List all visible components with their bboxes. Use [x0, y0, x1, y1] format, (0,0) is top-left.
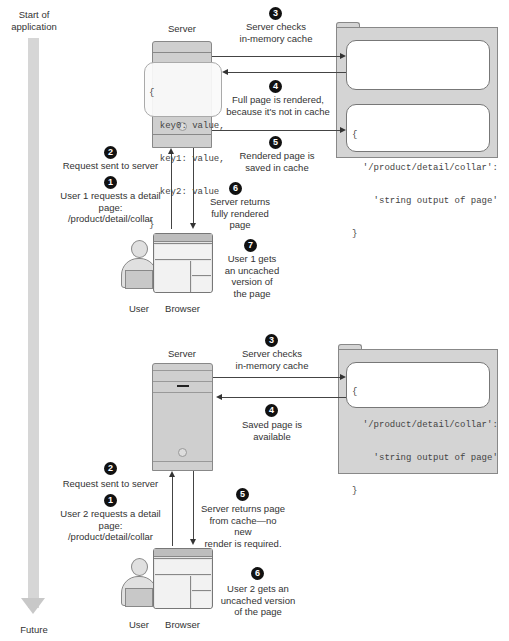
cache-entry-panel: { '/product/detail/collar': 'string outp… — [346, 362, 490, 408]
arrow-cache-hit — [222, 397, 346, 398]
step-1-label: User 1 requests a detail page:/product/d… — [48, 190, 173, 225]
step-badge: 2 — [104, 462, 117, 475]
arrow-head-icon — [169, 471, 175, 477]
code-line: '/product/detail/collar': — [352, 163, 498, 174]
step-1-label: User 2 requests a detail page:/product/d… — [48, 508, 173, 543]
arrow-head-icon — [340, 374, 346, 380]
code-line: { — [352, 130, 498, 141]
step-3-label: Server checksin-memory cache — [226, 21, 326, 44]
step-badge: 1 — [104, 494, 117, 507]
arrow-head-icon — [168, 148, 174, 154]
arrow-head-icon — [216, 394, 222, 400]
server-memory-cache: { key0: value, key1: value, key2: value … — [144, 62, 222, 117]
code-line: } — [352, 229, 498, 240]
code-line: { — [149, 88, 225, 99]
arrow-check-cache — [212, 56, 340, 57]
arrow-check-cache — [213, 377, 340, 378]
code-line: 'string output of page' — [352, 196, 498, 207]
arrow-head-icon — [190, 539, 196, 545]
arrow-head-icon — [190, 223, 196, 229]
code-line: } — [352, 486, 498, 497]
arrow-save-cache — [212, 130, 340, 131]
arrow-cache-miss — [228, 72, 346, 73]
step-badge: 4 — [269, 80, 282, 93]
step-6-label: User 2 gets anuncached versionof the pag… — [220, 583, 296, 618]
step-3-label: Server checksin-memory cache — [222, 348, 322, 371]
step-5-label: Server returns pagefrom cache—no newrend… — [200, 503, 286, 549]
browser-window-icon — [153, 233, 213, 293]
step-badge: 3 — [269, 7, 282, 20]
step-7-label: User 1 getsan uncachedversion ofthe page — [222, 253, 282, 299]
power-button-icon — [178, 448, 187, 457]
code-line: { — [352, 387, 498, 398]
step-4-label: Saved page is available — [222, 419, 322, 442]
timeline-start-label: Start of application — [8, 9, 60, 32]
step-5-label: Rendered page issaved in cache — [232, 150, 322, 173]
step-2-label: Request sent to server — [58, 478, 163, 490]
arrow-head-icon — [222, 69, 228, 75]
step-badge: 7 — [244, 239, 257, 252]
arrow-response — [193, 471, 194, 540]
arrow-head-icon — [340, 53, 346, 59]
step-badge: 1 — [104, 176, 117, 189]
code-line: '/product/detail/collar': — [352, 420, 498, 431]
cache-entry-panel: { '/product/detail/collar': 'string outp… — [346, 104, 490, 152]
arrow-request — [172, 477, 173, 546]
step-badge: 5 — [236, 488, 249, 501]
user-label: User — [124, 303, 154, 315]
server-label: Server — [162, 23, 202, 35]
step-badge: 6 — [229, 182, 242, 195]
cache-empty-panel — [346, 40, 490, 90]
timeline-arrow-icon — [21, 598, 45, 614]
code-line: 'string output of page' — [352, 453, 498, 464]
user-label: User — [124, 619, 154, 631]
step-badge: 3 — [265, 334, 278, 347]
step-2-label: Request sent to server — [58, 160, 163, 172]
server-tower-icon — [152, 363, 213, 471]
step-badge: 5 — [269, 136, 282, 149]
step-badge: 4 — [265, 404, 278, 417]
browser-label: Browser — [160, 619, 205, 631]
arrow-response — [193, 148, 194, 223]
step-4-label: Full page is rendered,because it's not i… — [224, 94, 332, 117]
browser-window-icon — [153, 548, 213, 609]
arrow-head-icon — [340, 127, 346, 133]
timeline-bar — [28, 38, 39, 608]
step-badge: 2 — [104, 146, 117, 159]
timeline-end-label: Future — [14, 624, 54, 636]
step-badge: 6 — [251, 567, 264, 580]
browser-label: Browser — [160, 303, 205, 315]
server-label: Server — [162, 348, 202, 360]
step-6-label: Server returnsfully rendered page — [200, 196, 280, 231]
arrow-request — [171, 154, 172, 229]
